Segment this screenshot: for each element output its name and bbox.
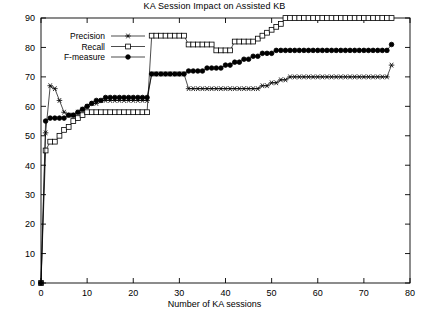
x-tick-label: 60	[313, 288, 323, 298]
y-tick-label: 70	[25, 72, 35, 82]
x-axis-label: Number of KA sessions	[0, 299, 429, 309]
legend-item-precision: Precision	[70, 31, 145, 41]
y-tick-label: 90	[25, 13, 35, 23]
x-tick-label: 30	[174, 288, 184, 298]
y-tick-label: 60	[25, 102, 35, 112]
legend-label: F-measure	[64, 52, 105, 62]
x-tick-label: 80	[405, 288, 415, 298]
legend-label: Recall	[81, 42, 105, 52]
y-tick-label: 20	[25, 219, 35, 229]
x-tick-label: 40	[220, 288, 230, 298]
x-tick-label: 10	[82, 288, 92, 298]
y-tick-label: 0	[30, 278, 35, 288]
series-precision	[38, 63, 394, 286]
legend-item-f-measure: F-measure	[64, 52, 145, 62]
x-tick-label: 70	[359, 288, 369, 298]
x-tick-label: 0	[38, 288, 43, 298]
y-tick-label: 10	[25, 249, 35, 259]
chart-legend: PrecisionRecallF-measure	[64, 31, 145, 62]
y-tick-label: 50	[25, 131, 35, 141]
x-tick-label: 20	[128, 288, 138, 298]
chart-figure: KA Session Impact on Assisted KB 0102030…	[0, 0, 429, 321]
y-tick-label: 80	[25, 43, 35, 53]
legend-item-recall: Recall	[81, 42, 145, 52]
y-tick-label: 40	[25, 161, 35, 171]
chart-plot-area: 010203040506070809001020304050607080 Pre…	[0, 0, 429, 321]
x-tick-label: 50	[267, 288, 277, 298]
y-tick-label: 30	[25, 190, 35, 200]
chart-title: KA Session Impact on Assisted KB	[0, 1, 429, 11]
legend-label: Precision	[70, 31, 105, 41]
series-f-measure	[39, 42, 394, 285]
